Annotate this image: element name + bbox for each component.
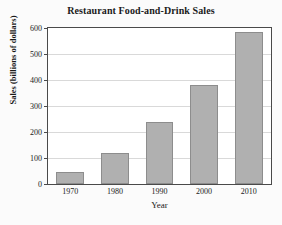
y-tick-label: 600 [30,24,42,33]
y-tick-mark [44,28,48,29]
x-tick-label: 1980 [107,187,123,196]
x-tick-label: 1970 [62,187,78,196]
bar-1970 [56,172,84,184]
y-tick-label: 200 [30,128,42,137]
chart-figure: Restaurant Food-and-Drink Sales Sales (b… [0,0,282,225]
y-tick-label: 500 [30,50,42,59]
y-tick-mark [44,80,48,81]
y-tick-mark [44,54,48,55]
y-tick-mark [44,132,48,133]
y-tick-mark [44,106,48,107]
y-tick-mark [44,184,48,185]
y-tick-label: 300 [30,102,42,111]
plot-area: 0100200300400500600 19701980199020002010 [47,27,272,185]
bar-1990 [146,122,174,184]
bar-2010 [235,32,263,184]
bar-1980 [101,153,129,184]
bar-2000 [190,85,218,184]
chart-title: Restaurant Food-and-Drink Sales [0,5,282,16]
y-tick-label: 100 [30,154,42,163]
x-tick-label: 1990 [152,187,168,196]
y-tick-mark [44,158,48,159]
x-tick-label: 2000 [196,187,212,196]
y-tick-label: 0 [38,180,42,189]
x-axis-label: Year [47,200,272,210]
x-tick-label: 2010 [241,187,257,196]
y-tick-label: 400 [30,76,42,85]
y-axis-label: Sales (billions of dollars) [8,0,18,125]
